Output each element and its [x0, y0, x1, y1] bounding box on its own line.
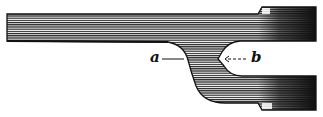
bar-body — [0, 0, 323, 117]
label-a: a — [150, 50, 160, 65]
forked-bar-diagram: a b — [0, 0, 323, 117]
forked-bar-drawing — [0, 0, 323, 117]
label-b: b — [251, 50, 262, 65]
